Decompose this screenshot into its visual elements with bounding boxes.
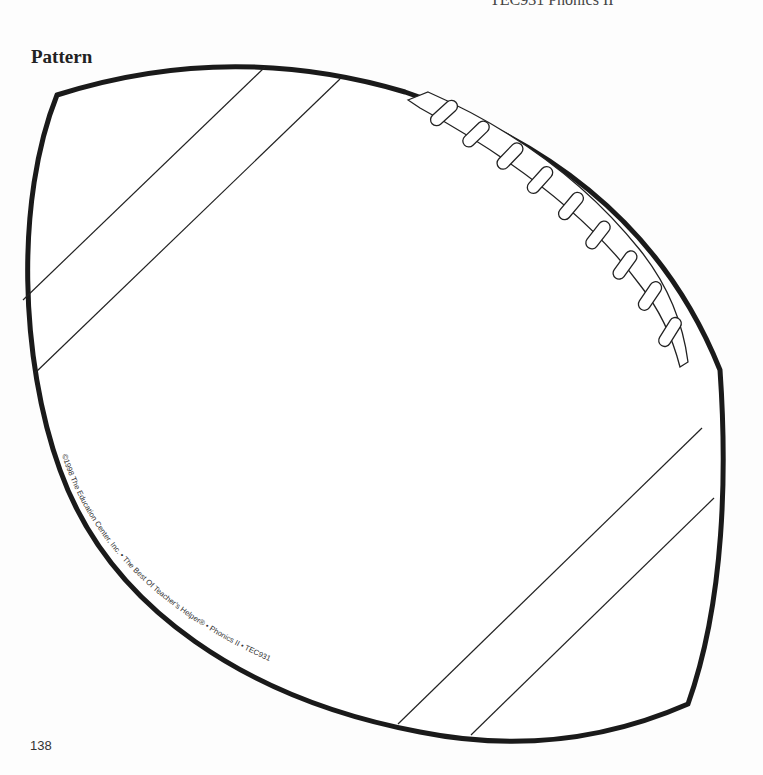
football-outline <box>28 67 724 742</box>
football-pattern: ©1998 The Education Center, Inc. • The B… <box>0 0 763 775</box>
page-number: 138 <box>30 738 52 753</box>
